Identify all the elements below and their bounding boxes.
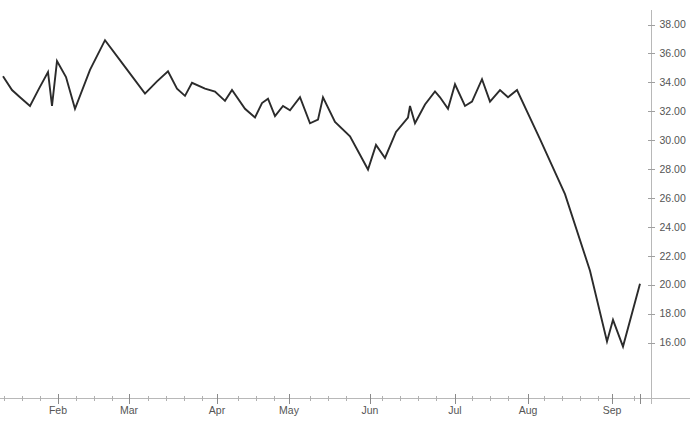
x-tick-label: Mar: [120, 404, 139, 416]
y-tick-label: 36.00: [660, 47, 686, 59]
y-tick-label: 22.00: [660, 250, 686, 262]
x-tick-label: Jul: [448, 404, 461, 416]
y-axis-tick-labels: 16.0018.0020.0022.0024.0026.0028.0030.00…: [660, 18, 686, 348]
x-axis-tick-labels: FebMarAprMayJunJulAugSep: [49, 404, 622, 416]
y-tick-label: 38.00: [660, 18, 686, 30]
x-tick-label: May: [279, 404, 300, 416]
y-tick-label: 18.00: [660, 307, 686, 319]
y-tick-label: 30.00: [660, 134, 686, 146]
x-axis: FebMarAprMayJunJulAugSep: [0, 394, 690, 416]
y-tick-label: 28.00: [660, 163, 686, 175]
x-tick-label: Feb: [49, 404, 67, 416]
y-tick-label: 34.00: [660, 76, 686, 88]
y-tick-label: 20.00: [660, 278, 686, 290]
chart-container: FebMarAprMayJunJulAugSep 16.0018.0020.00…: [0, 0, 695, 428]
x-tick-label: Jun: [362, 404, 379, 416]
x-tick-label: Sep: [603, 404, 622, 416]
price-line-series: [3, 40, 640, 346]
y-tick-label: 16.00: [660, 336, 686, 348]
line-chart: FebMarAprMayJunJulAugSep 16.0018.0020.00…: [0, 0, 695, 428]
y-tick-label: 24.00: [660, 221, 686, 233]
x-tick-label: Aug: [519, 404, 538, 416]
y-tick-label: 26.00: [660, 192, 686, 204]
y-axis: 16.0018.0020.0022.0024.0026.0028.0030.00…: [648, 10, 686, 404]
x-tick-label: Apr: [209, 404, 226, 416]
y-tick-label: 32.00: [660, 105, 686, 117]
